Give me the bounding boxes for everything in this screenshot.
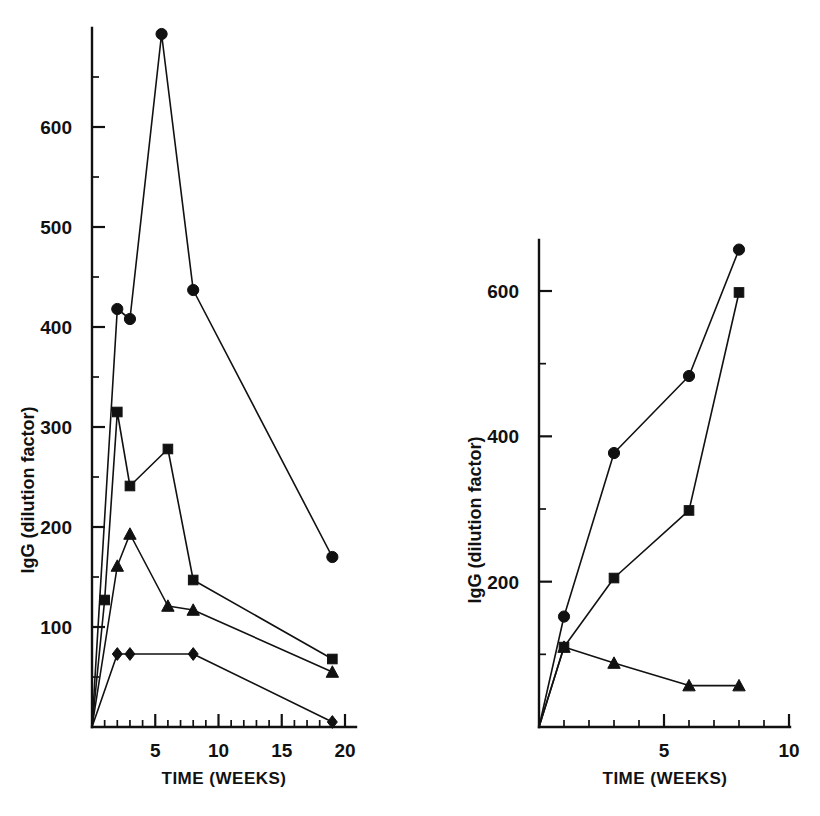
data-point-circle — [608, 447, 619, 458]
right-series-group — [539, 244, 745, 727]
y-tick-label: 500 — [40, 217, 72, 238]
x-tick-label: 10 — [778, 740, 799, 761]
data-point-square — [684, 506, 694, 516]
data-point-circle — [683, 370, 694, 381]
figure-container: 5101520100200300400500600 TIME (WEEKS) I… — [0, 0, 820, 816]
x-tick-label: 15 — [271, 740, 293, 761]
data-point-square — [100, 595, 110, 605]
data-point-square — [113, 407, 123, 417]
data-point-circle — [124, 313, 135, 324]
data-point-diamond — [125, 648, 135, 661]
left-series-group — [92, 28, 339, 728]
data-point-diamond — [188, 648, 198, 661]
series-polyline — [92, 654, 332, 727]
left-x-axis-title: TIME (WEEKS) — [162, 769, 287, 788]
data-point-circle — [188, 284, 199, 295]
series-polyline — [92, 34, 332, 727]
series-circle — [539, 244, 745, 727]
y-tick-label: 200 — [487, 572, 519, 593]
y-tick-label: 600 — [487, 281, 519, 302]
x-tick-label: 20 — [334, 740, 355, 761]
data-point-triangle — [124, 528, 136, 539]
data-point-square — [734, 288, 744, 298]
data-point-square — [609, 573, 619, 583]
right-axes — [539, 240, 790, 727]
left-axes — [92, 28, 356, 727]
right-tick-labels: 510200400600 — [487, 281, 799, 761]
series-diamond — [92, 648, 337, 729]
left-tick-labels: 5101520100200300400500600 — [40, 117, 355, 761]
series-polyline — [539, 250, 739, 727]
data-point-circle — [112, 303, 123, 314]
series-triangle — [92, 528, 339, 727]
data-point-triangle — [111, 560, 123, 571]
x-tick-label: 5 — [659, 740, 670, 761]
series-square — [92, 407, 337, 727]
x-tick-label: 5 — [150, 740, 161, 761]
figure-svg: 5101520100200300400500600 TIME (WEEKS) I… — [0, 0, 820, 816]
x-tick-label: 10 — [208, 740, 229, 761]
data-point-square — [328, 654, 338, 664]
data-point-square — [125, 481, 135, 491]
series-circle — [92, 28, 338, 727]
series-polyline — [92, 412, 332, 727]
y-tick-label: 400 — [40, 317, 72, 338]
left-y-axis-title: IgG (dilution factor) — [18, 407, 38, 574]
y-tick-label: 600 — [40, 117, 72, 138]
data-point-circle — [156, 28, 167, 39]
series-triangle — [539, 641, 745, 727]
series-polyline — [92, 534, 332, 727]
y-tick-label: 100 — [40, 617, 72, 638]
series-polyline — [539, 647, 739, 727]
left-chart-panel: 5101520100200300400500600 TIME (WEEKS) I… — [18, 28, 356, 788]
y-tick-label: 200 — [40, 517, 72, 538]
data-point-triangle — [326, 666, 338, 677]
data-point-square — [163, 444, 173, 454]
right-x-axis-title: TIME (WEEKS) — [603, 769, 728, 788]
y-tick-label: 400 — [487, 426, 519, 447]
data-point-circle — [733, 244, 744, 255]
data-point-circle — [327, 551, 338, 562]
right-chart-panel: 510200400600 TIME (WEEKS) IgG (dilution … — [465, 240, 800, 788]
data-point-triangle — [162, 600, 174, 611]
series-polyline — [539, 292, 739, 727]
y-tick-label: 300 — [40, 417, 72, 438]
series-square — [539, 288, 744, 727]
right-y-axis-title: IgG (dilution factor) — [465, 437, 485, 604]
left-tick-marks — [92, 77, 345, 727]
data-point-square — [188, 575, 198, 585]
data-point-diamond — [112, 648, 122, 661]
data-point-triangle — [608, 657, 620, 668]
right-tick-marks — [539, 291, 789, 727]
data-point-circle — [558, 611, 569, 622]
